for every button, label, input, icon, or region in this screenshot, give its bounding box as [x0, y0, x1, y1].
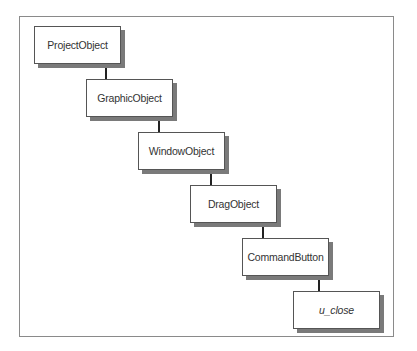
- node-graphic-object: GraphicObject: [86, 79, 173, 117]
- node-label: DragObject: [208, 198, 259, 210]
- connector-graphic-window: [158, 117, 160, 132]
- connector-drag-command: [262, 223, 264, 238]
- connector-command-uclose: [318, 276, 320, 291]
- node-label: u_close: [319, 304, 354, 316]
- node-window-object: WindowObject: [138, 132, 225, 170]
- node-command-button: CommandButton: [242, 238, 329, 276]
- diagram-frame: [19, 16, 394, 337]
- node-u-close: u_close: [293, 291, 380, 329]
- node-drag-object: DragObject: [190, 185, 277, 223]
- node-project-object: ProjectObject: [34, 26, 121, 64]
- node-label: CommandButton: [247, 251, 323, 263]
- node-label: WindowObject: [149, 145, 214, 157]
- node-label: ProjectObject: [47, 39, 107, 51]
- connector-window-drag: [210, 170, 212, 185]
- node-label: GraphicObject: [97, 92, 162, 104]
- connector-project-graphic: [105, 64, 107, 79]
